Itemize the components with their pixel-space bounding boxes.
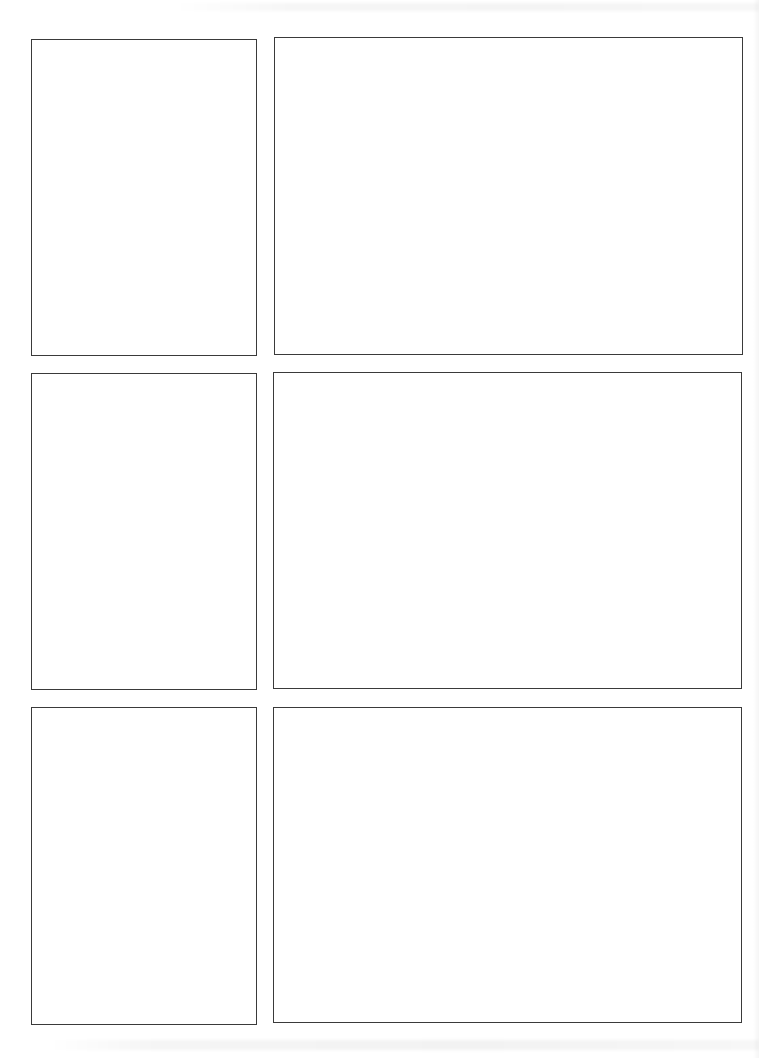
bleed-through-shadow-bottom: [50, 1040, 759, 1050]
panel-row3-right: [273, 707, 742, 1023]
panel-row3-left: [31, 707, 257, 1025]
bleed-through-shadow-top: [175, 3, 759, 11]
panel-row1-right: [274, 37, 743, 355]
page-edge-shadow: [753, 0, 759, 1058]
comic-page: [0, 0, 759, 1058]
panel-row2-right: [273, 372, 742, 689]
panel-row2-left: [31, 373, 257, 690]
panel-row1-left: [31, 39, 257, 356]
